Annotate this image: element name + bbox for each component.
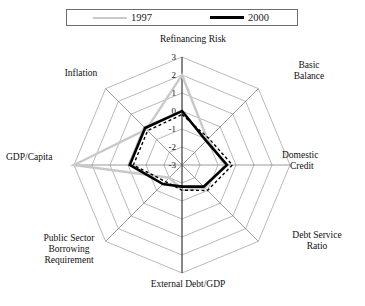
radial-tick-minus1: -1 <box>162 124 176 134</box>
radar-spoke-3 <box>182 165 258 241</box>
axis-label-psbr-line3: Requirement <box>14 255 124 266</box>
axis-label-inflation: Inflation <box>48 68 114 79</box>
legend-item-1997: 1997 <box>93 12 152 23</box>
axis-label-gdp-capita: GDP/Capita <box>6 152 78 163</box>
axis-label-domestic-credit-line2: Credit <box>282 161 352 172</box>
axis-label-psbr-line2: Borrowing <box>14 244 124 255</box>
radial-tick-0: 0 <box>162 106 176 116</box>
legend-swatch-2000-icon <box>210 16 244 19</box>
axis-label-domestic-credit-line1: Domestic <box>282 150 352 161</box>
clipped-title <box>0 0 365 9</box>
legend-swatch-1997-icon <box>93 17 127 19</box>
radar-spoke-5 <box>106 165 182 241</box>
radar-series <box>74 75 232 190</box>
axis-label-debt-service-line1: Debt Service <box>276 230 358 241</box>
axis-label-basic-balance: Basic Balance <box>278 60 340 82</box>
legend-label-1997: 1997 <box>131 12 152 23</box>
axis-label-domestic-credit: Domestic Credit <box>282 150 352 172</box>
axis-label-debt-service-ratio: Debt Service Ratio <box>276 230 358 252</box>
legend-item-2000: 2000 <box>210 12 269 23</box>
axis-label-basic-balance-line1: Basic <box>278 60 340 71</box>
axis-label-psbr-line1: Public Sector <box>14 233 124 244</box>
axis-label-external-debt-gdp: External Debt/GDP <box>118 279 258 290</box>
radar-chart-figure: 1997 2000 Refinancing Risk Basic Balance… <box>0 0 365 306</box>
radial-tick-2: 2 <box>162 70 176 80</box>
radial-tick-3: 3 <box>162 52 176 62</box>
axis-label-psbr: Public Sector Borrowing Requirement <box>14 233 124 266</box>
chart-legend: 1997 2000 <box>66 9 298 26</box>
radar-plot-area: Refinancing Risk Basic Balance Domestic … <box>0 26 365 306</box>
radial-tick-minus3: -3 <box>162 160 176 170</box>
radial-tick-minus2: -2 <box>162 142 176 152</box>
legend-label-2000: 2000 <box>248 12 269 23</box>
axis-label-basic-balance-line2: Balance <box>278 71 340 82</box>
axis-label-refinancing-risk: Refinancing Risk <box>133 34 253 45</box>
radial-tick-1: 1 <box>162 88 176 98</box>
axis-label-debt-service-line2: Ratio <box>276 241 358 252</box>
